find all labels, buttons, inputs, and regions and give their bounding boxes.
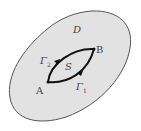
label-point-a: A [35,85,44,96]
svg-text:1: 1 [83,87,87,94]
point-a [47,81,50,84]
label-point-b: B [96,44,103,55]
diagram-canvas: D S B A Γ 2 Γ 1 [0,0,141,131]
label-region-d: D [72,24,81,35]
svg-text:2: 2 [47,61,51,68]
label-surface-s: S [65,61,72,72]
